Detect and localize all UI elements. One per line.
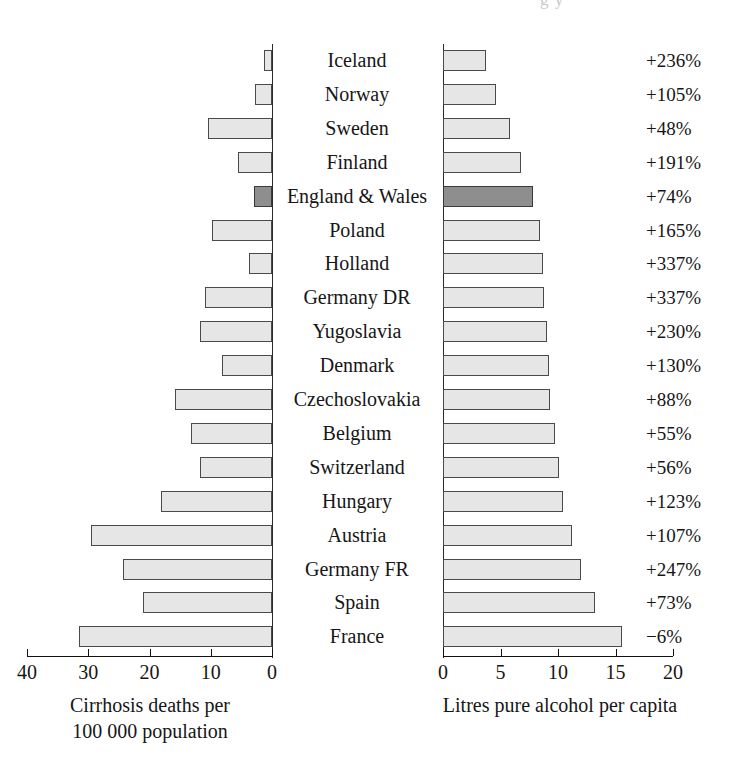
country-label: England & Wales — [278, 184, 436, 209]
alcohol-bar — [443, 84, 496, 105]
left-axis-tick-label: 0 — [252, 660, 292, 684]
percent-change-label: +123% — [646, 490, 752, 514]
cirrhosis-bar — [238, 152, 272, 173]
right-axis-tick-label: 15 — [596, 660, 636, 684]
alcohol-bar — [443, 592, 595, 613]
percent-change-label: +48% — [646, 117, 752, 141]
right-axis-tick-label: 5 — [481, 660, 521, 684]
country-label: Germany FR — [278, 557, 436, 582]
country-label: Iceland — [278, 48, 436, 73]
chart-row: Austria+107% — [0, 519, 754, 553]
right-axis-tick-label: 0 — [423, 660, 463, 684]
right-axis-line — [443, 656, 673, 657]
cirrhosis-bar — [161, 491, 272, 512]
right-axis-tick — [501, 649, 502, 656]
right-axis-tick — [616, 649, 617, 656]
alcohol-bar — [443, 559, 581, 580]
left-axis-tick-label: 20 — [130, 660, 170, 684]
percent-change-label: −6% — [646, 625, 752, 649]
percent-change-label: +337% — [646, 286, 752, 310]
left-axis-caption: Cirrhosis deaths per 100 000 population — [20, 692, 280, 744]
chart-row: Finland+191% — [0, 146, 754, 180]
percent-change-label: +230% — [646, 320, 752, 344]
percent-change-label: +236% — [646, 49, 752, 73]
chart-row: Germany FR+247% — [0, 553, 754, 587]
alcohol-bar — [443, 253, 543, 274]
country-label: Spain — [278, 590, 436, 615]
right-axis-tick — [673, 649, 674, 656]
percent-change-label: +56% — [646, 456, 752, 480]
left-axis-tick — [150, 649, 151, 656]
cirrhosis-bar — [205, 287, 272, 308]
percent-change-label: +191% — [646, 151, 752, 175]
country-label: Norway — [278, 82, 436, 107]
left-axis-tick — [211, 649, 212, 656]
chart-row: Poland+165% — [0, 214, 754, 248]
chart-row: Hungary+123% — [0, 485, 754, 519]
alcohol-bar — [443, 355, 549, 376]
alcohol-bar — [443, 321, 547, 342]
percent-change-label: +337% — [646, 252, 752, 276]
left-axis-tick-label: 10 — [191, 660, 231, 684]
percent-change-label: +105% — [646, 83, 752, 107]
cirrhosis-bar — [264, 50, 272, 71]
percent-change-label: +73% — [646, 591, 752, 615]
chart-row: Germany DR+337% — [0, 281, 754, 315]
chart-row: Spain+73% — [0, 586, 754, 620]
country-label: Switzerland — [278, 455, 436, 480]
cirrhosis-bar — [222, 355, 272, 376]
alcohol-bar — [443, 186, 533, 207]
chart-row: Belgium+55% — [0, 417, 754, 451]
alcohol-bar — [443, 220, 540, 241]
left-axis-caption-line2: 100 000 population — [20, 718, 280, 744]
left-axis-caption-line1: Cirrhosis deaths per — [20, 692, 280, 718]
alcohol-bar — [443, 626, 622, 647]
chart-row: Sweden+48% — [0, 112, 754, 146]
right-axis-tick-label: 10 — [538, 660, 578, 684]
country-label: Czechoslovakia — [278, 387, 436, 412]
cirrhosis-bar — [254, 186, 272, 207]
percent-change-label: +130% — [646, 354, 752, 378]
country-label: Finland — [278, 150, 436, 175]
left-axis-line — [27, 656, 273, 657]
alcohol-bar — [443, 50, 486, 71]
chart-row: Switzerland+56% — [0, 451, 754, 485]
cirrhosis-bar — [208, 118, 272, 139]
alcohol-bar — [443, 287, 544, 308]
alcohol-bar — [443, 525, 572, 546]
chart-row: England & Wales+74% — [0, 180, 754, 214]
cirrhosis-bar — [200, 321, 272, 342]
cirrhosis-bar — [249, 253, 272, 274]
percent-change-label: +88% — [646, 388, 752, 412]
right-axis-tick-label: 20 — [653, 660, 693, 684]
left-axis-tick — [27, 649, 28, 656]
percent-change-label: +107% — [646, 524, 752, 548]
cirrhosis-bar — [191, 423, 272, 444]
cirrhosis-bar — [91, 525, 272, 546]
chart-row: Norway+105% — [0, 78, 754, 112]
country-label: Hungary — [278, 489, 436, 514]
chart-row: Iceland+236% — [0, 44, 754, 78]
left-axis-tick — [272, 649, 273, 656]
percent-change-label: +165% — [646, 219, 752, 243]
country-label: Yugoslavia — [278, 319, 436, 344]
left-axis-tick-label: 40 — [7, 660, 47, 684]
alcohol-bar — [443, 491, 563, 512]
percent-change-label: +74% — [646, 185, 752, 209]
alcohol-bar — [443, 389, 550, 410]
alcohol-bar — [443, 152, 521, 173]
cirrhosis-bar — [212, 220, 272, 241]
alcohol-bar — [443, 118, 510, 139]
country-label: Sweden — [278, 116, 436, 141]
left-axis-tick-label: 30 — [68, 660, 108, 684]
chart-rows: Iceland+236%Norway+105%Sweden+48%Finland… — [0, 0, 754, 660]
cirrhosis-bar — [123, 559, 272, 580]
cirrhosis-bar — [79, 626, 272, 647]
alcohol-bar — [443, 457, 559, 478]
right-axis-caption: Litres pure alcohol per capita — [410, 692, 710, 718]
alcohol-bar — [443, 423, 555, 444]
chart-row: Denmark+130% — [0, 349, 754, 383]
cirrhosis-bar — [200, 457, 272, 478]
cirrhosis-bar — [255, 84, 272, 105]
percent-change-label: +55% — [646, 422, 752, 446]
